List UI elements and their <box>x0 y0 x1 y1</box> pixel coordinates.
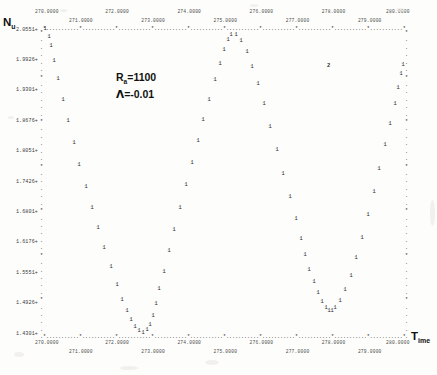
frame-cell: . <box>404 134 409 141</box>
data-point: 1 <box>384 143 387 148</box>
data-point: 1 <box>62 98 65 103</box>
data-point: 1 <box>116 283 119 288</box>
data-point: 1 <box>126 309 129 314</box>
frame-cell: . <box>404 201 409 208</box>
y-tick-label: 1.9926+ <box>4 58 38 63</box>
data-point: 1 <box>355 256 358 261</box>
data-point: 1 <box>282 172 285 177</box>
frame-cell: . <box>404 216 409 223</box>
data-point: 1 <box>251 65 254 70</box>
frame-cell: * <box>404 30 409 37</box>
data-point: 1 <box>179 206 182 211</box>
data-point: 1 <box>44 27 47 32</box>
data-point: 1 <box>130 318 133 323</box>
y-tick-label: 1.9301+ <box>4 88 38 93</box>
data-point: 1 <box>263 102 266 107</box>
data-point: 1 <box>97 226 100 231</box>
x-tick-label-bottom: 273.0000 <box>141 350 165 355</box>
data-point: 1 <box>344 288 347 293</box>
ascii-plot-figure: Nu Time Ra=1100 Λ=-0.01 *...........*...… <box>0 0 437 375</box>
frame-cell: . <box>39 89 44 96</box>
data-point: 1 <box>53 59 56 64</box>
data-point: 1 <box>402 63 405 68</box>
data-point: 1 <box>295 217 298 222</box>
data-point: 1 <box>48 35 51 40</box>
frame-cell: . <box>39 186 44 193</box>
data-point: 1 <box>202 118 205 123</box>
plot-frame-right: *.....*.....*.....*.....*.....*.....*...… <box>404 30 409 342</box>
data-point: 1 <box>50 44 53 49</box>
data-point: 1 <box>321 300 324 305</box>
data-point: 1 <box>397 86 400 91</box>
frame-cell: . <box>39 178 44 185</box>
data-point: 1 <box>400 72 403 77</box>
x-tick-label-bottom: 278.0000 <box>322 341 346 346</box>
annotation-line-rayleigh: Ra=1100 <box>116 70 156 87</box>
frame-cell: . <box>39 305 44 312</box>
plot-frame-bottom: *...........*...........*...........*...… <box>43 335 406 340</box>
data-point: 1 <box>230 33 233 38</box>
x-axis-title-base: T <box>411 330 418 342</box>
data-point: 1 <box>78 163 81 168</box>
frame-cell: * <box>39 208 44 215</box>
frame-cell: . <box>39 260 44 267</box>
data-point: 1 <box>163 270 166 275</box>
data-point: 1 <box>208 98 211 103</box>
frame-cell: . <box>404 305 409 312</box>
data-point: 1 <box>308 268 311 273</box>
rayleigh-value: =1100 <box>127 71 156 83</box>
frame-cell: * <box>404 75 409 82</box>
x-tick-label-top: 276.0000 <box>250 10 274 15</box>
frame-cell: . <box>404 97 409 104</box>
scan-artifact <box>205 360 219 365</box>
frame-cell: . <box>39 52 44 59</box>
scan-artifact <box>396 8 405 12</box>
frame-cell: . <box>39 60 44 67</box>
frame-cell: * <box>404 297 409 304</box>
frame-cell: . <box>39 82 44 89</box>
frame-cell: . <box>39 134 44 141</box>
x-tick-label-bottom: 275.0000 <box>214 350 238 355</box>
data-point: 1 <box>389 122 392 127</box>
frame-cell: . <box>404 156 409 163</box>
data-point: 1 <box>138 329 141 334</box>
scan-artifact <box>120 366 138 370</box>
frame-cell: . <box>39 216 44 223</box>
rayleigh-symbol: R <box>116 71 124 83</box>
x-tick-label-bottom: 272.0000 <box>105 341 129 346</box>
frame-cell: . <box>404 230 409 237</box>
data-point: 1 <box>219 62 222 67</box>
frame-cell: * <box>404 208 409 215</box>
data-point: 1 <box>378 167 381 172</box>
x-tick-label-top: 279.0000 <box>358 19 382 24</box>
frame-cell: . <box>39 245 44 252</box>
frame-cell: * <box>404 164 409 171</box>
frame-cell: * <box>404 119 409 126</box>
data-point: 1 <box>240 39 243 44</box>
data-point: 1 <box>197 139 200 144</box>
data-point: 1 <box>276 148 279 153</box>
x-tick-label-bottom: 276.0000 <box>250 341 274 346</box>
annotation-line-lambda: Λ=-0.01 <box>116 87 156 102</box>
data-point: 1 <box>149 323 152 328</box>
data-point: 1 <box>110 265 113 270</box>
frame-cell: . <box>39 230 44 237</box>
plot-frame-left: *.....*.....*.....*.....*.....*.....*...… <box>39 30 44 342</box>
data-point: 1 <box>361 236 364 241</box>
frame-cell: . <box>39 37 44 44</box>
data-point: 1 <box>73 141 76 146</box>
data-point: 1 <box>67 119 70 124</box>
y-tick-label: 1.8051+ <box>4 149 38 154</box>
frame-cell: . <box>39 104 44 111</box>
frame-cell: . <box>39 201 44 208</box>
data-point: 1 <box>173 228 176 233</box>
data-point: 1 <box>214 78 217 83</box>
frame-cell: . <box>404 260 409 267</box>
frame-cell: * <box>39 164 44 171</box>
x-tick-label-bottom: 280.0000 <box>386 341 410 346</box>
data-point: 1 <box>339 299 342 304</box>
frame-cell: * <box>39 75 44 82</box>
y-tick-label: 1.6176+ <box>4 240 38 245</box>
data-point: 1 <box>158 287 161 292</box>
frame-cell: . <box>39 171 44 178</box>
